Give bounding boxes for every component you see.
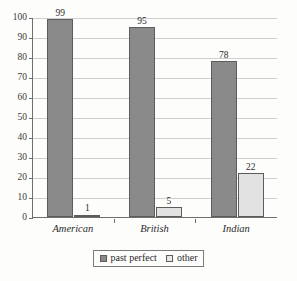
bar-past-perfect: 99 [47,19,73,217]
y-axis-tick-label: 40 [18,133,28,143]
bar-value-label: 99 [56,9,66,19]
bar-chart: 0102030405060708090100 9919557822 Americ… [0,0,297,281]
plot-area: 0102030405060708090100 9919557822 [32,18,277,218]
bar-other: 22 [238,173,264,217]
gridline [33,218,277,219]
bar-other: 5 [156,207,182,217]
y-axis-tick-label: 20 [18,173,28,183]
bar-group: 991 [33,18,115,217]
bar-past-perfect: 95 [129,27,155,217]
bar-value-label: 78 [219,51,229,61]
bar-value-label: 22 [246,163,256,173]
y-axis-tick-mark [29,218,33,219]
x-axis-category-label: American [52,224,93,235]
y-axis-tick-label: 30 [18,153,28,163]
legend-item[interactable]: past perfect [100,253,157,263]
x-axis-category-label: British [140,224,169,235]
bar-other: 1 [74,215,100,217]
bar-value-label: 1 [85,204,90,214]
bar-group: 7822 [196,18,278,217]
legend-swatch-past-perfect-icon [100,255,107,262]
legend-label: other [177,253,198,263]
legend-swatch-other-icon [166,255,173,262]
bars-layer: 9919557822 [33,18,277,217]
y-axis-tick-label: 0 [22,213,27,223]
bar-group: 955 [115,18,197,217]
x-axis-separator-tick [195,219,196,223]
y-axis-tick-label: 90 [18,33,28,43]
bar-past-perfect: 78 [211,61,237,217]
chart-legend: past perfectother [93,250,205,267]
x-axis-separator-tick [114,219,115,223]
bar-value-label: 5 [167,197,172,207]
legend-label: past perfect [111,253,157,263]
y-axis-tick-label: 70 [18,73,28,83]
x-axis-category-label: Indian [222,224,249,235]
y-axis-tick-label: 10 [18,193,28,203]
bar-value-label: 95 [137,17,147,27]
y-axis-tick-label: 80 [18,53,28,63]
y-axis-tick-label: 100 [13,13,27,23]
y-axis-tick-label: 50 [18,113,28,123]
legend-item[interactable]: other [166,253,198,263]
y-axis-tick-label: 60 [18,93,28,103]
